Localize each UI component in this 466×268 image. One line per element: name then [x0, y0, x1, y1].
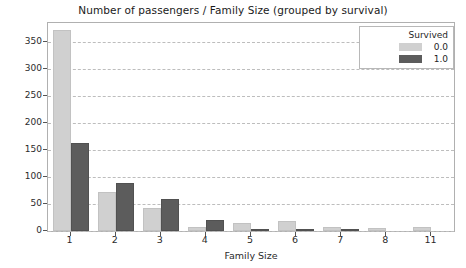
bar [161, 199, 179, 231]
x-axis-tick-mark [205, 232, 206, 236]
bar [323, 227, 341, 231]
y-axis-tick-label: 50 [31, 198, 42, 208]
legend: Survived 0.0 1.0 [359, 26, 454, 69]
x-axis-tick-mark [115, 232, 116, 236]
y-axis-tick-label: 150 [25, 144, 42, 154]
x-axis-tick-mark [70, 232, 71, 236]
y-axis-tick-mark [43, 41, 47, 42]
bar [116, 183, 134, 231]
gridline [48, 96, 454, 97]
y-axis-tick-label: 0 [36, 225, 42, 235]
y-axis-tick-labels: 050100150200250300350 [0, 0, 42, 268]
y-axis-tick-mark [43, 68, 47, 69]
bar [296, 229, 314, 231]
chart-figure: Number of passengers / Family Size (grou… [0, 0, 466, 268]
legend-item: 1.0 [365, 54, 448, 64]
y-axis-tick-mark [43, 176, 47, 177]
bar [53, 30, 71, 231]
x-axis-tick-mark [295, 232, 296, 236]
legend-item: 0.0 [365, 42, 448, 52]
bar [278, 221, 296, 231]
y-axis-tick-label: 300 [25, 63, 42, 73]
legend-title: Survived [365, 30, 448, 40]
y-axis-tick-label: 350 [25, 36, 42, 46]
y-axis-tick-label: 100 [25, 171, 42, 181]
legend-item-label: 1.0 [428, 54, 448, 64]
chart-title: Number of passengers / Family Size (grou… [0, 4, 466, 16]
y-axis-tick-mark [43, 95, 47, 96]
legend-swatch-icon [399, 55, 422, 63]
legend-item-label: 0.0 [428, 42, 448, 52]
x-axis-tick-mark [340, 232, 341, 236]
y-axis-tick-mark [43, 203, 47, 204]
x-axis-tick-labels: 1234567811 [47, 234, 455, 250]
bar [71, 143, 89, 231]
y-axis-tick-mark [43, 230, 47, 231]
y-axis-tick-label: 250 [25, 90, 42, 100]
bar [98, 192, 116, 231]
y-axis-tick-mark [43, 149, 47, 150]
bar [368, 228, 386, 231]
bar [188, 227, 206, 231]
legend-swatch-icon [399, 43, 422, 51]
gridline [48, 150, 454, 151]
x-axis-tick-mark [385, 232, 386, 236]
y-axis-tick-label: 200 [25, 117, 42, 127]
bar [143, 208, 161, 231]
bar [206, 220, 224, 231]
gridline [48, 231, 454, 232]
y-axis-tick-mark [43, 122, 47, 123]
gridline [48, 69, 454, 70]
x-axis-tick-mark [250, 232, 251, 236]
gridline [48, 177, 454, 178]
x-axis-tick-mark [430, 232, 431, 236]
bar [251, 229, 269, 231]
x-axis-tick-mark [160, 232, 161, 236]
bar [341, 229, 359, 231]
gridline [48, 123, 454, 124]
x-axis-title: Family Size [224, 250, 277, 261]
bar [413, 227, 431, 231]
bar [233, 223, 251, 231]
